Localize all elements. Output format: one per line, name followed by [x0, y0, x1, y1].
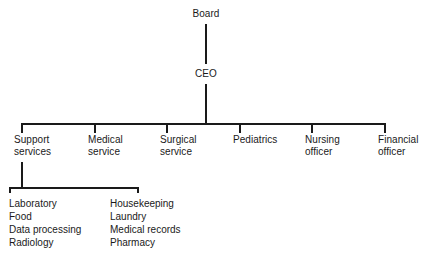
org-chart-canvas: Board CEO Support services Medical servi…: [0, 0, 441, 262]
node-surgical-service[interactable]: Surgical service: [160, 134, 232, 158]
node-ceo[interactable]: CEO: [181, 68, 231, 80]
node-support-services[interactable]: Support services: [14, 134, 86, 158]
connector-stem-surgical-service: [166, 123, 168, 133]
connector-stem-unit-column-right: [137, 187, 139, 193]
connector-stem-pediatrics: [239, 123, 241, 133]
connector-support-services-to-units: [21, 162, 23, 189]
connector-division-bus: [21, 123, 386, 125]
connector-ceo-to-divisions: [205, 84, 207, 124]
node-board[interactable]: Board: [181, 8, 231, 20]
connector-stem-medical-service: [94, 123, 96, 133]
connector-stem-unit-column-left: [9, 187, 11, 193]
connector-stem-support-services: [21, 123, 23, 133]
unit-list-right[interactable]: Housekeeping Laundry Medical records Pha…: [110, 197, 220, 249]
connector-stem-nursing-officer: [311, 123, 313, 133]
connector-board-to-ceo: [205, 24, 207, 64]
node-nursing-officer[interactable]: Nursing officer: [305, 134, 377, 158]
node-pediatrics[interactable]: Pediatrics: [233, 134, 305, 146]
connector-unit-bus: [9, 187, 139, 189]
unit-list-left[interactable]: Laboratory Food Data processing Radiolog…: [9, 197, 109, 249]
node-medical-service[interactable]: Medical service: [88, 134, 160, 158]
node-financial-officer[interactable]: Financial officer: [378, 134, 441, 158]
connector-stem-financial-officer: [384, 123, 386, 133]
